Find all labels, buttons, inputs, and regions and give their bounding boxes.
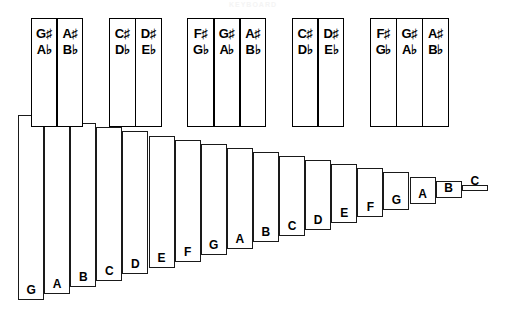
white-key[interactable]: A bbox=[410, 177, 436, 205]
black-key-flat-label: G♭ bbox=[193, 42, 209, 57]
white-key-label: A bbox=[45, 278, 69, 291]
white-key[interactable]: B bbox=[253, 152, 279, 243]
white-key-label: B bbox=[437, 182, 461, 195]
white-key-label: E bbox=[332, 207, 356, 220]
white-key[interactable]: E bbox=[149, 136, 175, 269]
black-key-sharp-label: G♯ bbox=[401, 26, 417, 41]
black-key-flat-label: E♭ bbox=[324, 42, 338, 57]
black-key-flat-label: B♭ bbox=[63, 42, 78, 57]
black-key[interactable]: F♯G♭ bbox=[370, 18, 397, 127]
black-key-flat-label: D♭ bbox=[115, 42, 130, 57]
black-key[interactable]: C♯D♭ bbox=[292, 18, 319, 127]
white-key[interactable]: B bbox=[436, 181, 462, 198]
black-key-flat-label: B♭ bbox=[428, 42, 443, 57]
black-key-sharp-label: F♯ bbox=[194, 26, 208, 41]
white-key[interactable]: C bbox=[462, 185, 488, 192]
white-key-label: A bbox=[411, 188, 435, 201]
black-key-flat-label: D♭ bbox=[298, 42, 313, 57]
white-key-label: E bbox=[150, 252, 174, 265]
black-key[interactable]: G♯A♭ bbox=[396, 18, 423, 127]
black-key-flat-label: A♭ bbox=[37, 42, 52, 57]
black-key[interactable]: G♯A♭ bbox=[214, 18, 241, 127]
white-key[interactable]: G bbox=[383, 172, 409, 210]
white-key[interactable]: G bbox=[18, 115, 44, 300]
black-key-sharp-label: G♯ bbox=[36, 26, 52, 41]
white-key-label: B bbox=[254, 226, 278, 239]
white-key[interactable]: C bbox=[96, 127, 122, 281]
black-key-sharp-label: C♯ bbox=[115, 26, 130, 41]
white-key-label: D bbox=[123, 258, 147, 271]
white-key[interactable]: D bbox=[305, 160, 331, 230]
black-key-flat-label: B♭ bbox=[245, 42, 260, 57]
white-key-label: C bbox=[280, 220, 304, 233]
black-key[interactable]: D♯E♭ bbox=[135, 18, 162, 127]
black-key[interactable]: A♯B♭ bbox=[57, 18, 84, 127]
black-key-sharp-label: D♯ bbox=[324, 26, 339, 41]
white-key[interactable]: D bbox=[122, 131, 148, 274]
black-key-sharp-label: G♯ bbox=[219, 26, 235, 41]
black-key[interactable]: A♯B♭ bbox=[240, 18, 267, 127]
black-key-flat-label: A♭ bbox=[402, 42, 417, 57]
black-key-sharp-label: A♯ bbox=[428, 26, 443, 41]
white-key-label: G bbox=[202, 239, 226, 252]
black-key-sharp-label: A♯ bbox=[245, 26, 260, 41]
white-key-label: C bbox=[463, 175, 487, 188]
white-key[interactable]: G bbox=[201, 144, 227, 256]
white-key-label: A bbox=[228, 233, 252, 246]
keyboard-diagram: KEYBOARD GABCDEFGABCDEFGABC G♯A♭A♯B♭C♯D♭… bbox=[0, 0, 506, 324]
black-key-sharp-label: D♯ bbox=[141, 26, 156, 41]
white-key-label: C bbox=[97, 265, 121, 278]
white-key-label: F bbox=[176, 246, 200, 259]
black-key[interactable]: G♯A♭ bbox=[31, 18, 58, 127]
white-key-label: F bbox=[358, 201, 382, 214]
black-key-flat-label: E♭ bbox=[141, 42, 155, 57]
black-key[interactable]: D♯E♭ bbox=[318, 18, 345, 127]
black-key-sharp-label: F♯ bbox=[376, 26, 390, 41]
white-key[interactable]: B bbox=[70, 123, 96, 287]
white-key[interactable]: E bbox=[331, 164, 357, 223]
white-key-label: G bbox=[384, 194, 408, 207]
white-key[interactable]: F bbox=[175, 140, 201, 262]
white-key[interactable]: C bbox=[279, 156, 305, 236]
white-key-label: G bbox=[19, 284, 43, 297]
page-title: KEYBOARD bbox=[0, 0, 506, 10]
white-key-label: B bbox=[71, 271, 95, 284]
black-key[interactable]: F♯G♭ bbox=[187, 18, 214, 127]
black-key-sharp-label: A♯ bbox=[63, 26, 78, 41]
white-key[interactable]: A bbox=[227, 148, 253, 249]
black-key-sharp-label: C♯ bbox=[297, 26, 312, 41]
black-key-flat-label: A♭ bbox=[219, 42, 234, 57]
white-key[interactable]: F bbox=[357, 168, 383, 217]
black-key-flat-label: G♭ bbox=[376, 42, 392, 57]
black-key[interactable]: C♯D♭ bbox=[109, 18, 136, 127]
black-key[interactable]: A♯B♭ bbox=[422, 18, 449, 127]
white-key[interactable]: A bbox=[44, 119, 70, 294]
white-key-label: D bbox=[306, 214, 330, 227]
